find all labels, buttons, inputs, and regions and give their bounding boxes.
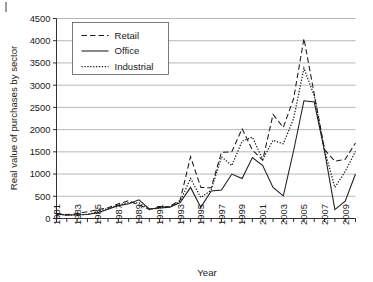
chart-legend: RetailOfficeIndustrial <box>73 23 169 75</box>
legend-label-retail: Retail <box>115 30 140 41</box>
y-axis-tick-label: 3500 <box>30 57 51 68</box>
chart-background <box>0 0 373 282</box>
x-axis-tick-label: 2005 <box>298 204 309 225</box>
y-axis-tick-label: 2000 <box>30 124 51 135</box>
y-axis-tick-label: 4500 <box>30 13 51 24</box>
legend-label-office: Office <box>115 45 140 56</box>
line-chart: 050010001500200025003000350040004500 198… <box>0 0 373 282</box>
y-axis-tick-label: 1000 <box>30 168 51 179</box>
x-axis-tick-label: 1999 <box>236 204 247 225</box>
y-axis-tick-label: 1500 <box>30 146 51 157</box>
x-axis-tick-label: 1985 <box>92 204 103 225</box>
y-axis-tick-label: 4000 <box>30 35 51 46</box>
y-axis-tick-label: 3000 <box>30 80 51 91</box>
x-axis-tick-label: 2003 <box>278 204 289 225</box>
x-axis-tick-label: 2001 <box>257 204 268 225</box>
x-axis-tick-label: 2007 <box>319 204 330 225</box>
legend-label-industrial: Industrial <box>115 61 154 72</box>
x-axis-tick-label: 1989 <box>133 204 144 225</box>
y-axis-tick-label: 2500 <box>30 102 51 113</box>
x-axis-title: Year <box>197 267 217 278</box>
chart-figure: 050010001500200025003000350040004500 198… <box>0 0 373 282</box>
x-axis-tick-label: 1993 <box>175 204 186 225</box>
x-axis-tick-label: 1997 <box>216 204 227 225</box>
y-axis-tick-label: 0 <box>45 213 50 224</box>
x-axis-tick-label: 2009 <box>340 204 351 225</box>
y-axis-tick-label: 500 <box>35 191 51 202</box>
y-axis-title: Real value of purchases by sector <box>8 45 19 190</box>
